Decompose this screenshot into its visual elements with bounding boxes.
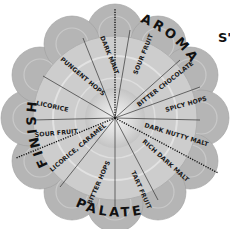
cut-off-title: S' [218,30,230,45]
flavor-wheel: AROMA FINISH PALATE S' DARK MALT SOUR FR… [0,0,230,229]
